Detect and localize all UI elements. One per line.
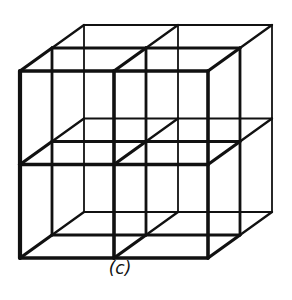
lattice-edge: [240, 119, 272, 142]
lattice-edge: [20, 142, 52, 165]
lattice-edge: [114, 142, 146, 165]
lattice-edge: [208, 235, 240, 258]
lattice-edge: [114, 48, 146, 71]
lattice-edge: [208, 48, 240, 71]
lattice-edge: [52, 212, 84, 235]
lattice-edge: [20, 235, 52, 258]
lattice-edge: [240, 212, 272, 235]
lattice-edge: [146, 119, 178, 142]
lattice-edge: [114, 235, 146, 258]
figure-caption: (c): [100, 258, 140, 278]
cube-lattice-diagram: [0, 0, 292, 300]
lattice-edge: [52, 25, 84, 48]
lattice-edge: [20, 48, 52, 71]
lattice-edge: [208, 142, 240, 165]
lattice-edge: [146, 25, 178, 48]
lattice-edge: [52, 119, 84, 142]
lattice-edge: [240, 25, 272, 48]
lattice-edge: [146, 212, 178, 235]
